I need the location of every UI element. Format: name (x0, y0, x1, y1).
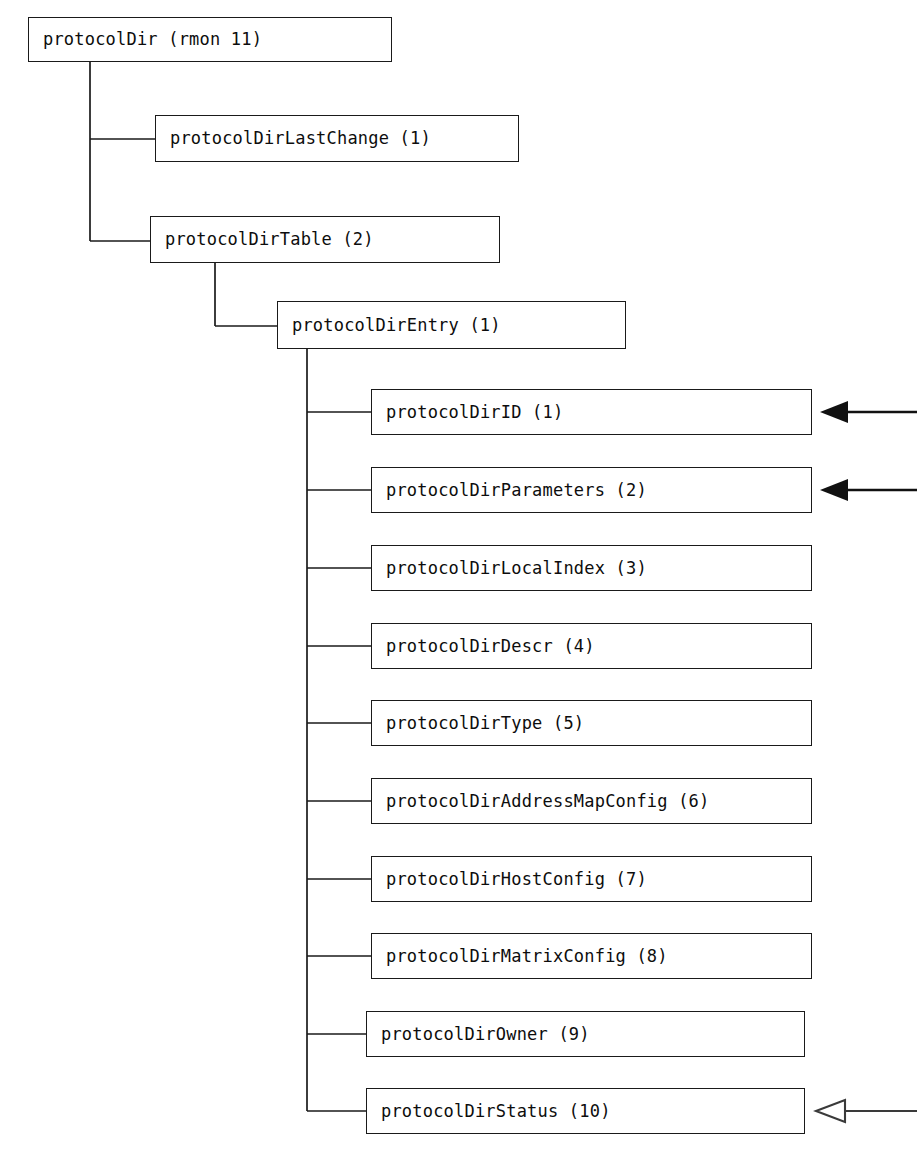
node-protocol-dir-entry[interactable]: protocolDirEntry (1) (277, 301, 626, 349)
node-protocol-dir[interactable]: protocolDir (rmon 11) (28, 17, 392, 62)
node-protocol-dir-entry-label: protocolDirEntry (1) (278, 317, 501, 334)
node-protocol-dir-descr[interactable]: protocolDirDescr (4) (371, 623, 812, 669)
node-protocol-dir-owner[interactable]: protocolDirOwner (9) (366, 1011, 805, 1057)
node-protocol-dir-table-label: protocolDirTable (2) (151, 231, 374, 248)
node-protocol-dir-local-index-label: protocolDirLocalIndex (3) (372, 560, 647, 577)
node-protocol-dir-last-change[interactable]: protocolDirLastChange (1) (155, 115, 519, 162)
node-protocol-dir-matrix-config[interactable]: protocolDirMatrixConfig (8) (371, 933, 812, 979)
mib-tree-diagram: protocolDir (rmon 11) protocolDirLastCha… (0, 0, 917, 1156)
node-protocol-dir-label: protocolDir (rmon 11) (29, 31, 262, 48)
node-protocol-dir-local-index[interactable]: protocolDirLocalIndex (3) (371, 545, 812, 591)
node-protocol-dir-table[interactable]: protocolDirTable (2) (150, 216, 500, 263)
node-protocol-dir-address-map-config[interactable]: protocolDirAddressMapConfig (6) (371, 778, 812, 824)
node-protocol-dir-type-label: protocolDirType (5) (372, 715, 584, 732)
node-protocol-dir-id-label: protocolDirID (1) (372, 404, 563, 421)
node-protocol-dir-matrix-config-label: protocolDirMatrixConfig (8) (372, 948, 668, 965)
node-protocol-dir-host-config-label: protocolDirHostConfig (7) (372, 871, 647, 888)
node-protocol-dir-parameters[interactable]: protocolDirParameters (2) (371, 467, 812, 513)
node-protocol-dir-type[interactable]: protocolDirType (5) (371, 700, 812, 746)
node-protocol-dir-status-label: protocolDirStatus (10) (367, 1103, 611, 1120)
node-protocol-dir-parameters-label: protocolDirParameters (2) (372, 482, 647, 499)
node-protocol-dir-status[interactable]: protocolDirStatus (10) (366, 1088, 805, 1134)
node-protocol-dir-owner-label: protocolDirOwner (9) (367, 1026, 590, 1043)
node-protocol-dir-last-change-label: protocolDirLastChange (1) (156, 130, 431, 147)
node-protocol-dir-address-map-config-label: protocolDirAddressMapConfig (6) (372, 793, 709, 810)
node-protocol-dir-id[interactable]: protocolDirID (1) (371, 389, 812, 435)
node-protocol-dir-descr-label: protocolDirDescr (4) (372, 638, 595, 655)
node-protocol-dir-host-config[interactable]: protocolDirHostConfig (7) (371, 856, 812, 902)
